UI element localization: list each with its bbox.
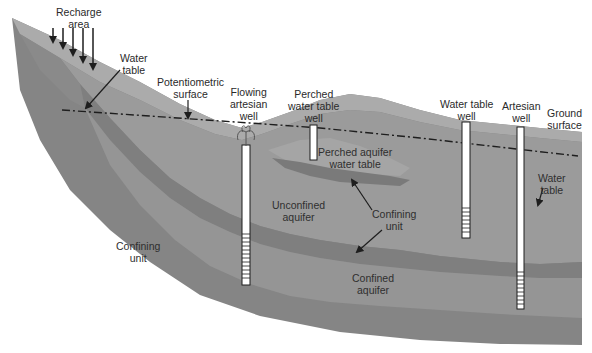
label-perched-aquifer-water-table: Perched aquifer water table — [318, 146, 392, 170]
label-confined-aquifer: Confined aquifer — [352, 272, 394, 296]
label-line: surface — [547, 119, 582, 131]
aquifer-cross-section-diagram: Recharge area Water table Potentiometric… — [0, 0, 592, 353]
label-line: water table — [318, 158, 392, 170]
label-line: Water — [120, 52, 148, 64]
cross-section-graphic — [0, 0, 592, 353]
label-line: Flowing — [230, 86, 267, 98]
label-line: table — [120, 64, 148, 76]
label-recharge-area: Recharge area — [56, 6, 102, 30]
label-line: Confining — [372, 208, 416, 220]
perched-water-table-well — [310, 125, 317, 160]
label-line: aquifer — [272, 211, 325, 223]
label-line: water table — [288, 100, 339, 112]
label-line: table — [538, 184, 566, 196]
label-line: Perched — [288, 88, 339, 100]
label-line: Confined — [352, 272, 394, 284]
label-perched-water-table-well: Perched water table well — [288, 88, 339, 124]
label-line: artesian — [230, 98, 267, 110]
label-ground-surface: Ground surface — [547, 107, 582, 131]
label-line: well — [288, 112, 339, 124]
label-line: unit — [372, 220, 416, 232]
label-line: area — [56, 18, 102, 30]
label-line: Ground — [547, 107, 582, 119]
label-water-table-well: Water table well — [440, 98, 493, 122]
label-line: Unconfined — [272, 199, 325, 211]
label-line: Potentiometric — [157, 76, 224, 88]
label-water-table-top: Water table — [120, 52, 148, 76]
label-line: well — [230, 110, 267, 122]
label-line: Water — [538, 172, 566, 184]
label-line: Artesian — [502, 100, 541, 112]
water-table-well — [462, 122, 470, 238]
label-line: Perched aquifer — [318, 146, 392, 158]
label-confining-unit-mid: Confining unit — [372, 208, 416, 232]
label-water-table-right: Water table — [538, 172, 566, 196]
label-confining-unit-left: Confining unit — [116, 240, 160, 264]
label-line: Confining — [116, 240, 160, 252]
label-line: Water table — [440, 98, 493, 110]
label-line: well — [502, 112, 541, 124]
label-artesian-well: Artesian well — [502, 100, 541, 124]
label-line: Recharge — [56, 6, 102, 18]
label-unconfined-aquifer: Unconfined aquifer — [272, 199, 325, 223]
label-line: aquifer — [352, 284, 394, 296]
label-line: well — [440, 110, 493, 122]
label-flowing-artesian-well: Flowing artesian well — [230, 86, 267, 122]
label-line: surface — [157, 88, 224, 100]
artesian-well — [517, 127, 524, 309]
label-potentiometric-surface: Potentiometric surface — [157, 76, 224, 100]
label-line: unit — [116, 252, 160, 264]
